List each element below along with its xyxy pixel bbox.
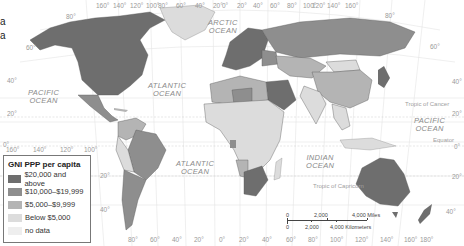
ocean-label-atlantic-south: ATLANTIC OCEAN — [176, 160, 214, 176]
legend-swatch — [8, 175, 21, 183]
lon-bottom-label: 140° — [380, 236, 393, 243]
lat-label-left: 20° — [7, 110, 17, 117]
ocean-label-arctic: ARCTIC OCEAN — [208, 19, 238, 35]
legend-label: no data — [25, 226, 50, 235]
lon-bottom-label: 40° — [172, 236, 182, 243]
lat-label-right: 80° — [385, 12, 395, 19]
lon-left-label: 160° — [6, 146, 19, 153]
lon-top-label: 20° — [237, 2, 247, 9]
lon-top-label: 120° — [130, 2, 143, 9]
legend-label: $20,000 and above — [24, 170, 86, 188]
legend-swatch — [8, 201, 22, 209]
lon-bottom-label: 40° — [262, 236, 272, 243]
lon-bottom-label: 160° — [404, 236, 417, 243]
legend-item: Below $5,000 — [8, 211, 86, 224]
lon-top-label: 60° — [176, 2, 186, 9]
lat-label-right: 0° — [454, 143, 460, 150]
lon-top-label: 40° — [253, 2, 263, 9]
lat-label-left: 40° — [7, 77, 17, 84]
ocean-label-pacific-west: PACIFIC OCEAN — [28, 89, 59, 105]
legend-item: no data — [8, 224, 86, 237]
legend-swatch — [8, 188, 22, 196]
lon-top-label: 80° — [287, 2, 297, 9]
lon-top-label: 0° — [222, 2, 228, 9]
lon-bottom-label: 0° — [219, 236, 225, 243]
lon-top-label: 80° — [158, 2, 168, 9]
legend-swatch — [8, 227, 22, 235]
lat-label-right: 40° — [452, 78, 462, 85]
lat-label-right: 20° — [452, 173, 462, 180]
legend-swatch — [8, 214, 22, 222]
scale-km-4000: 4,000 Kilometers — [330, 224, 371, 230]
lon-top-label: 60° — [270, 2, 280, 9]
lon-bottom-label: 60° — [150, 236, 160, 243]
lon-top-label: 160° — [96, 2, 109, 9]
title-fragment-2: a — [0, 30, 6, 41]
ocean-label-indian: INDIAN OCEAN — [306, 154, 334, 170]
tropic-of-capricorn-label: Tropic of Capricorn — [313, 183, 364, 189]
gabon — [230, 140, 236, 148]
lon-bottom-label: 80° — [308, 236, 318, 243]
lon-bottom-label: 20° — [239, 236, 249, 243]
lat-label-right: 40° — [446, 208, 456, 215]
lon-bottom-label: 100° — [330, 236, 343, 243]
lon-top-label: 160° — [345, 2, 358, 9]
ocean-label-atlantic-north: ATLANTIC OCEAN — [148, 82, 186, 98]
lon-top-label: 120° — [312, 2, 325, 9]
southeast-asia — [332, 104, 350, 130]
legend-label: $5,000–$9,999 — [25, 200, 75, 209]
scale-tick — [336, 220, 337, 222]
lon-bottom-label: 180° — [420, 236, 433, 243]
scale-line — [287, 220, 367, 221]
lon-top-label: 40° — [195, 2, 205, 9]
mexico — [78, 95, 118, 122]
argentina-chile — [122, 170, 146, 230]
madagascar — [274, 158, 282, 180]
scale-tick — [367, 218, 368, 220]
lon-left-label: 100° — [84, 146, 97, 153]
scale-miles-2000: 2,000 — [314, 212, 328, 218]
new-zealand — [418, 204, 432, 224]
lon-top-label: 140° — [327, 2, 340, 9]
lon-bottom-label: 80° — [128, 236, 138, 243]
legend-label: $10,000–$19,999 — [25, 187, 83, 196]
equator-label: Equator — [433, 137, 454, 143]
greenland — [160, 5, 215, 40]
lon-left-label: 140° — [33, 146, 46, 153]
north-america — [30, 12, 165, 95]
legend-label: Below $5,000 — [25, 213, 70, 222]
indonesia — [340, 138, 396, 150]
brazil — [128, 130, 166, 180]
australia — [356, 158, 410, 206]
legend-title: GNI PPP per capita — [8, 160, 86, 169]
legend-item: $10,000–$19,999 — [8, 185, 86, 198]
lon-bottom-label: 60° — [286, 236, 296, 243]
eastern-europe — [262, 50, 278, 66]
scale-km-0: 0 — [286, 224, 289, 230]
tropic-of-cancer-label: Tropic of Cancer — [405, 101, 449, 107]
lat-label-right: 60° — [430, 43, 440, 50]
scale-tick — [327, 218, 328, 220]
lon-top-label: 140° — [113, 2, 126, 9]
lat-label-left: 80° — [66, 13, 76, 20]
legend-item: $20,000 and above — [8, 172, 86, 185]
lat-label-sa: 40° — [100, 206, 110, 213]
ocean-label-pacific-east: PACIFIC OCEAN — [414, 117, 445, 133]
japan — [378, 66, 390, 88]
scale-tick — [311, 220, 312, 222]
lat-label-left: 60° — [26, 44, 36, 51]
lat-label-sa: 20° — [100, 172, 110, 179]
lon-bottom-label: 20° — [194, 236, 204, 243]
lon-left-label: 120° — [60, 146, 73, 153]
russia — [262, 18, 415, 58]
lon-bottom-label: 120° — [355, 236, 368, 243]
legend-item: $5,000–$9,999 — [8, 198, 86, 211]
lat-label-right: 20° — [452, 110, 462, 117]
scale-km-2000: 2,000 — [305, 224, 319, 230]
legend: GNI PPP per capita $20,000 and above $10… — [3, 155, 91, 243]
scale-bar: 0 2,000 4,000 Miles 0 2,000 4,000 Kilome… — [286, 212, 396, 232]
title-fragment-1: a — [0, 16, 6, 27]
